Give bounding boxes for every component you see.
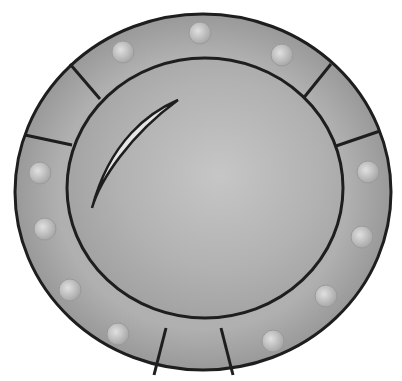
rivet: [351, 226, 373, 248]
rivet: [29, 162, 51, 184]
rivet: [59, 279, 81, 301]
rivet: [107, 323, 129, 345]
rivet: [271, 44, 293, 66]
rivet: [112, 41, 134, 63]
rivet: [262, 330, 284, 352]
shield-graphic: [0, 0, 402, 381]
rivet: [357, 161, 379, 183]
rivet: [315, 285, 337, 307]
rivet: [34, 218, 56, 240]
rivet: [189, 22, 211, 44]
shield-illustration: [0, 0, 402, 381]
shield-face: [67, 58, 343, 318]
